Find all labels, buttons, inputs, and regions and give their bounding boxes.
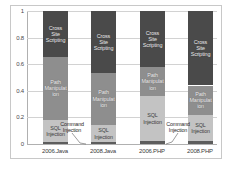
- annotation-command-injection-java: Command Injection: [55, 121, 89, 133]
- annotation-command-injection-php: Command Injection: [161, 121, 195, 133]
- x-label-2006-php: 2006.PHP: [128, 148, 176, 154]
- x-label-2008-php: 2008.PHP: [176, 148, 224, 154]
- x-label-2006-java: 2006.Java: [31, 148, 79, 154]
- x-label-2008-java: 2008.Java: [79, 148, 127, 154]
- chart-figure: 0 0.2 0.4 0.6 0.8 1 Cross Site Scripting…: [0, 0, 232, 187]
- annotation-leader-lines: [0, 0, 232, 187]
